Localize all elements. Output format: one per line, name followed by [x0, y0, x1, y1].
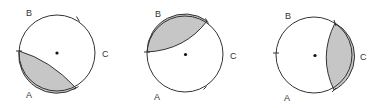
- label-a: A: [284, 93, 290, 103]
- label-c: C: [360, 52, 367, 62]
- panel-1: B C A: [16, 8, 109, 100]
- shaded-segment-c: [326, 23, 354, 90]
- label-b: B: [155, 9, 161, 19]
- center-dot: [55, 51, 58, 54]
- label-c: C: [230, 51, 237, 61]
- center-dot: [313, 54, 316, 57]
- shaded-segment-b: [147, 14, 207, 52]
- circle-segments-figure: B C A B C A B C A: [0, 0, 386, 108]
- label-b: B: [26, 8, 32, 18]
- panel-2: B C A: [144, 9, 237, 102]
- panel-3: B C A: [273, 11, 367, 103]
- center-dot: [184, 53, 187, 56]
- label-a: A: [154, 92, 160, 102]
- shaded-segment-a: [19, 51, 76, 93]
- label-a: A: [26, 90, 32, 100]
- label-c: C: [102, 49, 109, 59]
- label-b: B: [285, 11, 291, 21]
